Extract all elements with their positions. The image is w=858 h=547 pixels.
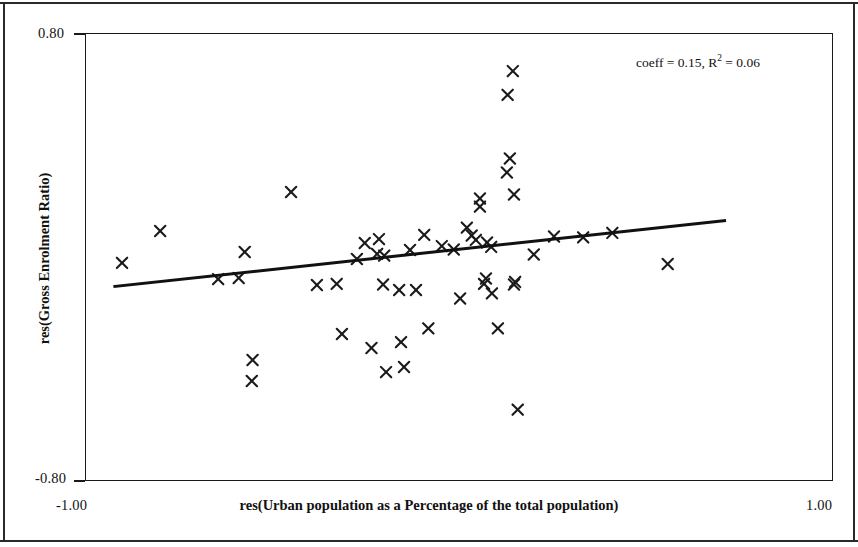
data-point-marker: [155, 226, 165, 236]
data-point-marker: [513, 404, 523, 414]
data-point-marker: [502, 167, 512, 177]
page-border-bottom: [0, 540, 858, 542]
regression-annotation: coeff = 0.15, R2 = 0.06: [636, 53, 760, 71]
data-markers-group: [117, 66, 673, 415]
data-point-marker: [493, 323, 503, 333]
data-point-marker: [394, 285, 404, 295]
data-point-marker: [337, 329, 347, 339]
data-point-marker: [381, 367, 391, 377]
data-point-marker: [455, 293, 465, 303]
page-border-right: [853, 2, 855, 542]
data-point-marker: [509, 189, 519, 199]
annotation-suffix: = 0.06: [722, 55, 760, 70]
data-point-marker: [399, 362, 409, 372]
annotation-prefix: coeff = 0.15, R: [636, 55, 717, 70]
y-axis-tick-label-bottom: -0.80: [35, 470, 66, 487]
y-axis-tick-mark-bottom: [74, 480, 85, 482]
x-axis-title: res(Urban population as a Percentage of …: [0, 497, 858, 514]
data-point-marker: [366, 343, 376, 353]
y-axis-title: res(Gross Enrolment Ratio): [36, 69, 53, 449]
scatter-plot-canvas: [85, 33, 833, 481]
data-point-marker: [286, 187, 296, 197]
y-axis-tick-mark-top: [74, 33, 85, 35]
page-border-left: [3, 2, 5, 542]
data-point-marker: [502, 90, 512, 100]
page-border-top: [0, 2, 858, 4]
data-point-marker: [117, 258, 127, 268]
data-point-marker: [247, 376, 257, 386]
chart-page: 0.80 -0.80 -1.00 1.00 res(Urban populati…: [0, 0, 858, 547]
data-point-marker: [374, 234, 384, 244]
data-point-marker: [471, 235, 481, 245]
data-point-marker: [411, 285, 421, 295]
data-point-marker: [508, 66, 518, 76]
data-point-marker: [312, 280, 322, 290]
data-point-marker: [419, 230, 429, 240]
data-point-marker: [475, 201, 485, 211]
data-point-marker: [505, 153, 515, 163]
data-point-marker: [360, 238, 370, 248]
data-point-marker: [529, 249, 539, 259]
data-point-marker: [239, 247, 249, 257]
data-point-marker: [487, 288, 497, 298]
data-point-marker: [332, 279, 342, 289]
data-point-marker: [247, 355, 257, 365]
data-point-marker: [662, 259, 672, 269]
y-axis-tick-label-top: 0.80: [38, 25, 64, 42]
data-point-marker: [423, 323, 433, 333]
data-point-marker: [378, 279, 388, 289]
data-point-marker: [396, 337, 406, 347]
